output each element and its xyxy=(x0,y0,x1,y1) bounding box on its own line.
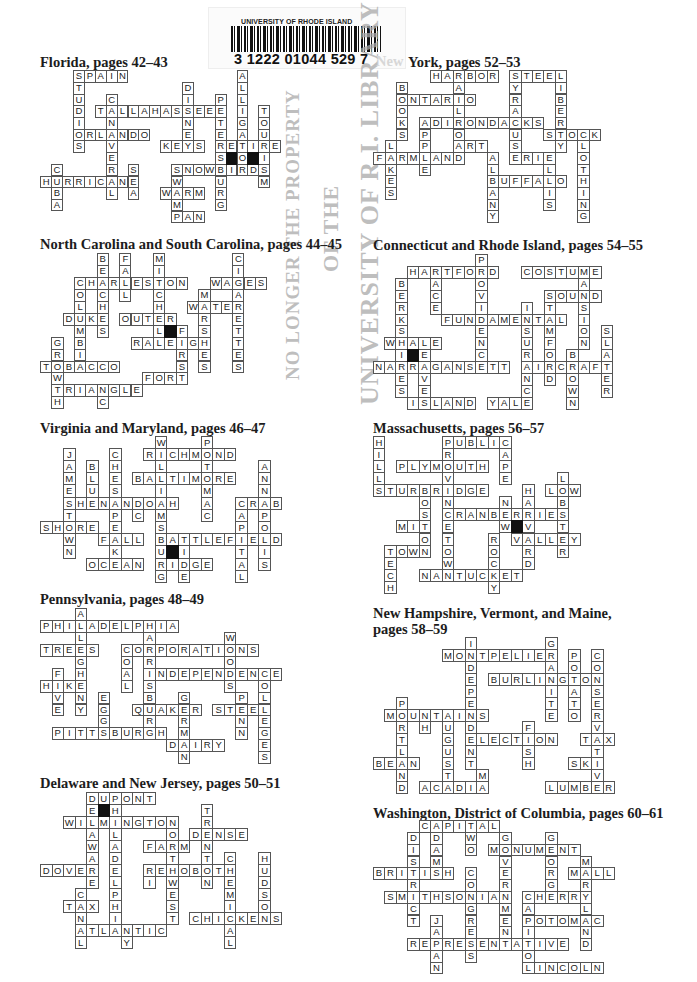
letter-cell: N xyxy=(258,484,271,497)
letter-cell: O xyxy=(555,175,567,188)
letter-cell: O xyxy=(132,644,145,657)
letter-cell: S xyxy=(419,508,432,521)
letter-cell: I xyxy=(63,620,76,633)
letter-cell: S xyxy=(86,644,99,657)
letter-cell: L xyxy=(106,187,118,200)
letter-cell: T xyxy=(212,864,225,877)
letter-cell: B xyxy=(63,361,75,374)
puzzle-title: Connecticut and Rhode Island, pages 54–5… xyxy=(373,237,643,253)
letter-cell: I xyxy=(212,644,225,657)
letter-cell: G xyxy=(187,337,199,350)
puzzle-title: York, pages 52–53 xyxy=(408,54,520,70)
letter-cell: N xyxy=(201,876,214,889)
letter-cell: N xyxy=(591,962,604,975)
letter-cell: O xyxy=(108,361,120,374)
letter-cell: R xyxy=(247,497,260,510)
letter-cell: E xyxy=(247,533,260,546)
letter-cell: N xyxy=(117,70,129,83)
letter-cell: T xyxy=(235,545,248,558)
letter-cell: D xyxy=(487,266,499,279)
letter-cell: D xyxy=(544,373,556,386)
letter-cell: N xyxy=(212,668,225,681)
letter-cell: E xyxy=(534,649,547,662)
letter-cell: I xyxy=(534,673,547,686)
letter-cell: D xyxy=(166,739,179,752)
black-cell xyxy=(511,520,524,533)
letter-cell: A xyxy=(128,187,140,200)
letter-cell: S xyxy=(97,325,109,338)
letter-cell: M xyxy=(63,472,76,485)
letter-cell: R xyxy=(189,704,202,717)
letter-cell: D xyxy=(522,557,535,570)
letter-cell: I xyxy=(396,867,409,880)
letter-cell: C xyxy=(430,781,443,794)
letter-cell: S xyxy=(464,361,476,374)
black-cell xyxy=(164,325,176,338)
puzzle-title: Delaware and New Jersey, pages 50–51 xyxy=(40,775,281,791)
letter-cell: R xyxy=(511,508,524,521)
letter-cell: C xyxy=(521,385,533,398)
letter-cell: T xyxy=(166,912,179,925)
letter-cell: N xyxy=(98,497,111,510)
letter-cell: E xyxy=(221,301,233,314)
letter-cell: B xyxy=(270,497,283,510)
letter-cell: I xyxy=(258,152,270,165)
letter-cell: S xyxy=(270,912,283,925)
letter-cell: S xyxy=(171,105,183,118)
black-cell xyxy=(166,545,179,558)
letter-cell: R xyxy=(441,94,453,107)
letter-cell: K xyxy=(166,704,179,717)
letter-cell: E xyxy=(155,864,168,877)
letter-cell: A xyxy=(166,620,179,633)
letter-cell: E xyxy=(178,570,191,583)
letter-cell: O xyxy=(143,497,156,510)
letter-cell: C xyxy=(109,448,122,461)
letter-cell: L xyxy=(235,570,248,583)
letter-cell: L xyxy=(75,936,88,949)
letter-cell: J xyxy=(63,448,76,461)
letter-cell: N xyxy=(464,314,476,327)
letter-cell: O xyxy=(568,709,581,722)
letter-cell: N xyxy=(578,337,590,350)
letter-cell: M xyxy=(488,844,501,857)
letter-cell: M xyxy=(258,176,270,189)
letter-cell: K xyxy=(85,313,97,326)
faded-title-prefix: New xyxy=(376,53,403,70)
library-stamp-line1: NO LONGER THE PROPERTY xyxy=(282,89,304,380)
letter-cell: E xyxy=(384,757,397,770)
letter-cell: T xyxy=(532,314,544,327)
letter-cell: T xyxy=(580,733,593,746)
letter-cell: T xyxy=(95,105,107,118)
letter-cell: E xyxy=(453,938,466,951)
letter-cell: O xyxy=(464,266,476,279)
letter-cell: N xyxy=(566,397,578,410)
letter-cell: S xyxy=(142,277,154,290)
letter-cell: O xyxy=(578,325,590,338)
letter-cell: O xyxy=(453,891,466,904)
letter-cell: S xyxy=(396,129,408,142)
letter-cell: N xyxy=(407,757,420,770)
letter-cell: Y xyxy=(121,936,134,949)
letter-cell: M xyxy=(384,709,397,722)
letter-cell: H xyxy=(85,277,97,290)
letter-cell: L xyxy=(224,936,237,949)
letter-cell: H xyxy=(384,581,397,594)
letter-cell: T xyxy=(142,313,154,326)
letter-cell: A xyxy=(532,175,544,188)
letter-cell: I xyxy=(226,164,238,177)
letter-cell: H xyxy=(75,497,88,510)
letter-cell: E xyxy=(545,709,558,722)
letter-cell: I xyxy=(166,558,179,571)
letter-cell: E xyxy=(419,938,432,951)
letter-cell: L xyxy=(98,924,111,937)
letter-cell: T xyxy=(63,509,76,522)
letter-cell: I xyxy=(143,876,156,889)
barcode-number: 3 1222 01044 529 7 xyxy=(234,51,368,67)
letter-cell: A xyxy=(498,117,510,130)
letter-cell: H xyxy=(522,757,535,770)
letter-cell: B xyxy=(189,864,202,877)
puzzle-title: Pennsylvania, pages 48–49 xyxy=(40,591,204,607)
letter-cell: E xyxy=(164,337,176,350)
letter-cell: T xyxy=(63,900,76,913)
letter-cell: X xyxy=(86,900,99,913)
